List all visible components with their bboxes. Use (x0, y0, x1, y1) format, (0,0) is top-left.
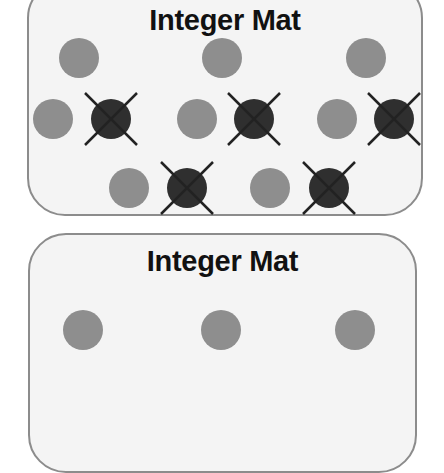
mat-title: Integer Mat (30, 245, 415, 278)
negative-counter (374, 99, 414, 139)
positive-counter (109, 168, 149, 208)
mat-title: Integer Mat (29, 4, 421, 37)
negative-counter (91, 99, 131, 139)
positive-counter (335, 310, 375, 350)
integer-mat-bottom: Integer Mat (28, 233, 417, 473)
positive-counter (63, 310, 103, 350)
negative-counter (167, 168, 207, 208)
positive-counter (201, 310, 241, 350)
positive-counter (250, 168, 290, 208)
negative-counter (309, 168, 349, 208)
positive-counter (202, 38, 242, 78)
negative-counter (234, 99, 274, 139)
positive-counter (177, 99, 217, 139)
positive-counter (33, 99, 73, 139)
integer-mat-top: Integer Mat (27, 0, 423, 216)
positive-counter (346, 38, 386, 78)
positive-counter (317, 99, 357, 139)
positive-counter (59, 38, 99, 78)
